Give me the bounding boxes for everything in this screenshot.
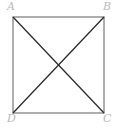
figure-canvas xyxy=(0,0,116,128)
vertex-label-a: A xyxy=(7,1,15,13)
geometry-figure: A B C D xyxy=(0,0,116,128)
vertex-label-d: D xyxy=(7,113,16,125)
vertex-label-c: C xyxy=(103,113,111,125)
vertex-label-b: B xyxy=(103,1,111,13)
